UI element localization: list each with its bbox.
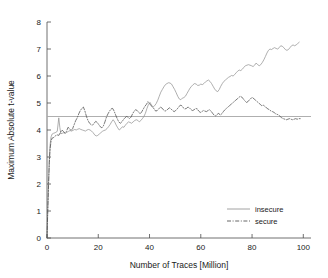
y-tick-label: 7 [37,45,42,54]
x-tick-label: 100 [297,243,311,252]
y-tick-label: 5 [37,99,42,108]
legend-label-secure: secure [255,217,278,226]
x-tick-label: 40 [145,243,154,252]
x-axis-title: Number of Traces [Million] [130,260,229,270]
y-tick-label: 2 [37,180,42,189]
legend-label-insecure: insecure [255,205,283,214]
chart-background [0,0,328,278]
y-tick-label: 1 [37,207,42,216]
x-tick-label: 0 [45,243,50,252]
x-tick-label: 20 [94,243,103,252]
y-tick-label: 3 [37,153,42,162]
y-tick-label: 4 [37,126,42,135]
y-tick-label: 6 [37,72,42,81]
y-axis-title: Maximum Absolute t-value [6,80,16,180]
x-tick-label: 80 [248,243,257,252]
chart-figure: 012345678 020406080100 Number of Traces … [0,0,328,278]
line-chart: 012345678 020406080100 Number of Traces … [0,0,328,278]
y-tick-label: 8 [37,18,42,27]
y-tick-label: 0 [37,234,42,243]
x-tick-label: 60 [196,243,205,252]
